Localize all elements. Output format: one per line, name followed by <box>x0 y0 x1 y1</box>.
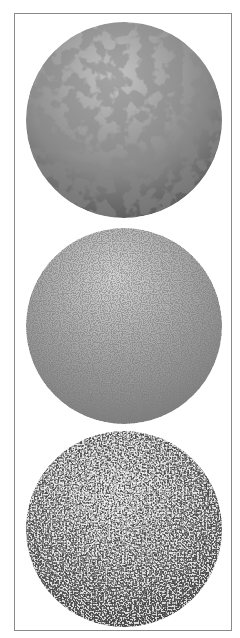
sphere-fine-grain-noise <box>26 228 222 424</box>
sphere-blotch-noise <box>26 22 222 218</box>
sphere-coarse-speckle-noise <box>26 431 222 627</box>
